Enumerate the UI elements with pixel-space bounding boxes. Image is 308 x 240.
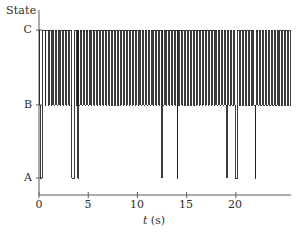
x-axis-label: t (s) [0, 214, 308, 227]
state-signal-path [39, 30, 291, 178]
x-axis-label-symbol: t [143, 214, 147, 227]
x-tick-label-15: 15 [174, 198, 198, 211]
signal-trace [39, 30, 291, 178]
y-tick-label-a: A [12, 171, 32, 184]
x-axis-label-units: (s) [151, 214, 165, 227]
x-tick-label-0: 0 [27, 198, 51, 211]
state-trajectory-figure: State C B A 0 5 10 15 20 t (s) [0, 0, 308, 240]
y-tick-label-c: C [12, 23, 32, 36]
x-tick-label-5: 5 [76, 198, 100, 211]
y-axis-label: State [6, 4, 36, 17]
x-tick-label-10: 10 [125, 198, 149, 211]
y-tick-label-b: B [12, 98, 32, 111]
x-tick-label-20: 20 [223, 198, 247, 211]
